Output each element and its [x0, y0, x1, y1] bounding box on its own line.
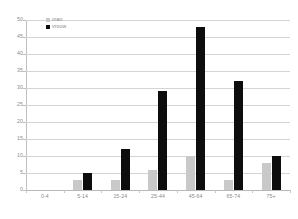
x-tick-label: 5-14 [64, 194, 102, 199]
x-tick-label: 15-24 [101, 194, 139, 199]
bar-chart: 05101520253035404550 0-45-1415-2425-4445… [0, 0, 298, 219]
x-tick-mark [26, 190, 27, 193]
bar-group [177, 20, 215, 190]
bar-man-5-14 [73, 180, 82, 190]
x-axis: 0-45-1415-2425-4445-6465-7475+ [26, 194, 290, 206]
x-tick-mark [215, 190, 216, 193]
legend-label-man: man [52, 17, 62, 22]
x-tick-label: 75+ [252, 194, 290, 199]
bar-vrouw-25-44 [158, 91, 167, 190]
x-tick-label: 45-64 [177, 194, 215, 199]
legend-label-vrouw: vrouw [52, 24, 66, 29]
gridline [26, 190, 290, 191]
x-tick-mark [101, 190, 102, 193]
bar-vrouw-65-74 [234, 81, 243, 190]
x-tick-label: 25-44 [139, 194, 177, 199]
x-tick-mark [139, 190, 140, 193]
bar-group [215, 20, 253, 190]
bar-group [252, 20, 290, 190]
x-tick-mark [252, 190, 253, 193]
legend-item-vrouw: vrouw [46, 24, 66, 30]
plot-area [26, 20, 290, 190]
x-tick-mark [290, 190, 291, 193]
x-tick-mark [64, 190, 65, 193]
bar-vrouw-15-24 [121, 149, 130, 190]
legend-item-man: man [46, 17, 66, 23]
legend-swatch-man-icon [46, 18, 50, 22]
bar-vrouw-5-14 [83, 173, 92, 190]
x-tick-label: 0-4 [26, 194, 64, 199]
bar-vrouw-45-64 [196, 27, 205, 190]
chart-legend: man vrouw [46, 17, 66, 30]
y-axis: 05101520253035404550 [0, 0, 23, 219]
bar-man-15-24 [111, 180, 120, 190]
legend-swatch-vrouw-icon [46, 25, 50, 29]
bar-man-45-64 [186, 156, 195, 190]
x-tick-label: 65-74 [215, 194, 253, 199]
bar-group [64, 20, 102, 190]
bar-man-75+ [262, 163, 271, 190]
bar-group [101, 20, 139, 190]
bar-man-65-74 [224, 180, 233, 190]
bar-vrouw-75+ [272, 156, 281, 190]
bar-man-25-44 [148, 170, 157, 190]
bar-group [139, 20, 177, 190]
x-tick-mark [177, 190, 178, 193]
bar-group [26, 20, 64, 190]
